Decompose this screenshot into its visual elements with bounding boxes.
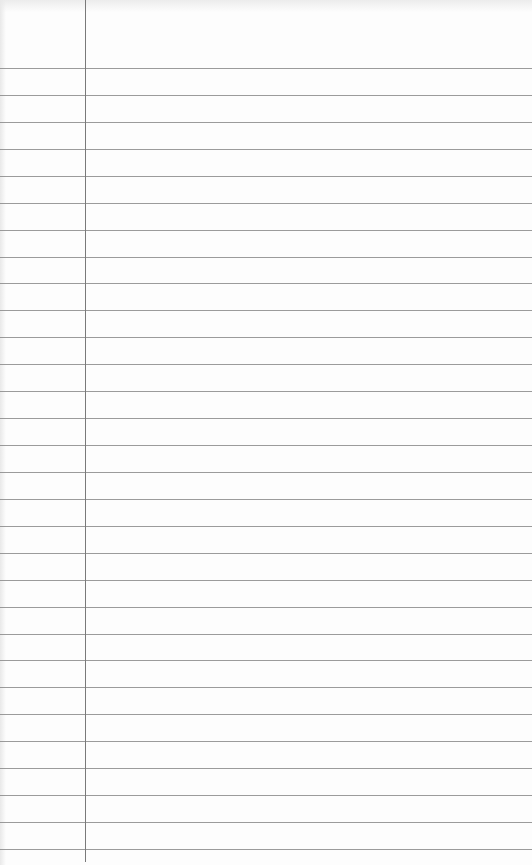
paper-top-edge-shadow	[0, 0, 532, 12]
ruled-line	[0, 230, 532, 231]
ruled-line	[0, 741, 532, 742]
ruled-line	[0, 714, 532, 715]
ruled-line	[0, 445, 532, 446]
ruled-line	[0, 849, 532, 850]
ruled-line	[0, 95, 532, 96]
ruled-line	[0, 795, 532, 796]
ruled-line	[0, 68, 532, 69]
ruled-line	[0, 337, 532, 338]
ruled-line	[0, 310, 532, 311]
ruled-line	[0, 580, 532, 581]
ruled-line	[0, 768, 532, 769]
ruled-line	[0, 149, 532, 150]
ruled-line	[0, 526, 532, 527]
ruled-line	[0, 687, 532, 688]
ruled-line	[0, 176, 532, 177]
ruled-line	[0, 822, 532, 823]
ruled-line	[0, 364, 532, 365]
ruled-line	[0, 499, 532, 500]
ruled-line	[0, 472, 532, 473]
ruled-line	[0, 418, 532, 419]
ruled-line	[0, 553, 532, 554]
ruled-line	[0, 257, 532, 258]
ruled-line	[0, 283, 532, 284]
ruled-line	[0, 391, 532, 392]
ruled-line	[0, 607, 532, 608]
ruled-line	[0, 634, 532, 635]
paper-left-edge-shadow	[0, 0, 6, 865]
ruled-line	[0, 122, 532, 123]
ruled-line	[0, 660, 532, 661]
lined-paper	[0, 0, 532, 865]
margin-line	[85, 0, 86, 862]
ruled-line	[0, 203, 532, 204]
